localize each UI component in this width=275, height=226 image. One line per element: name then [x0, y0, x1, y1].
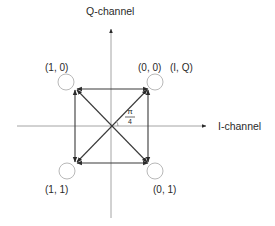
- point-label-bottom-left: (1, 1): [45, 184, 68, 195]
- qpsk-constellation-diagram: π 4 Q-channel I-channel (1, 0) (0, 0) (I…: [0, 0, 275, 226]
- i-channel-label: I-channel: [218, 120, 261, 132]
- point-circle-bottom-right: [147, 163, 163, 179]
- point-label-top-left: (1, 0): [45, 62, 68, 73]
- angle-denominator: 4: [128, 118, 132, 125]
- point-circle-top-left: [58, 74, 74, 90]
- point-label-bottom-right: (0, 1): [153, 184, 176, 195]
- angle-label: π 4: [125, 107, 135, 125]
- angle-arc: [116, 121, 118, 126]
- iq-legend-label: (I, Q): [170, 62, 193, 73]
- point-circle-bottom-left: [59, 163, 75, 179]
- angle-numerator: π: [127, 107, 133, 116]
- point-circle-top-right: [147, 74, 163, 90]
- q-channel-label: Q-channel: [86, 5, 134, 17]
- point-label-top-right: (0, 0): [138, 62, 161, 73]
